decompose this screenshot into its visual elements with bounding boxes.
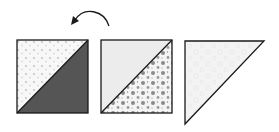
quilt-diagram: [0, 0, 279, 132]
curved-arrow-icon: [71, 11, 109, 26]
block-3-triangle: [185, 41, 264, 124]
block-1-half-square-triangle: [17, 40, 88, 113]
block-2-half-square-triangle: [101, 40, 172, 113]
